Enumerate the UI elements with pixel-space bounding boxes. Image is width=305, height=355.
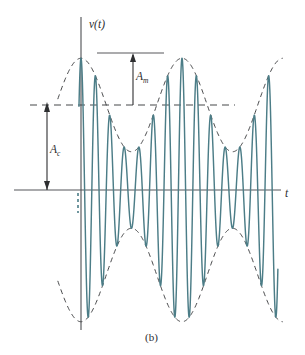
ac-arrow-head-down [44,181,50,190]
am-waveform-figure: v(t) t A m A c (b) [0,0,305,355]
am-label-subscript: m [143,76,149,85]
ac-arrow-head-up [44,102,50,112]
figure-caption: (b) [145,331,158,344]
am-arrow-head-up [130,53,136,62]
ac-label-subscript: c [57,149,61,158]
x-axis-label: t [285,187,289,199]
figure-svg: v(t) t A m A c (b) [0,0,305,355]
y-axis-label: v(t) [89,18,105,31]
am-modulated-waveform [79,58,278,317]
